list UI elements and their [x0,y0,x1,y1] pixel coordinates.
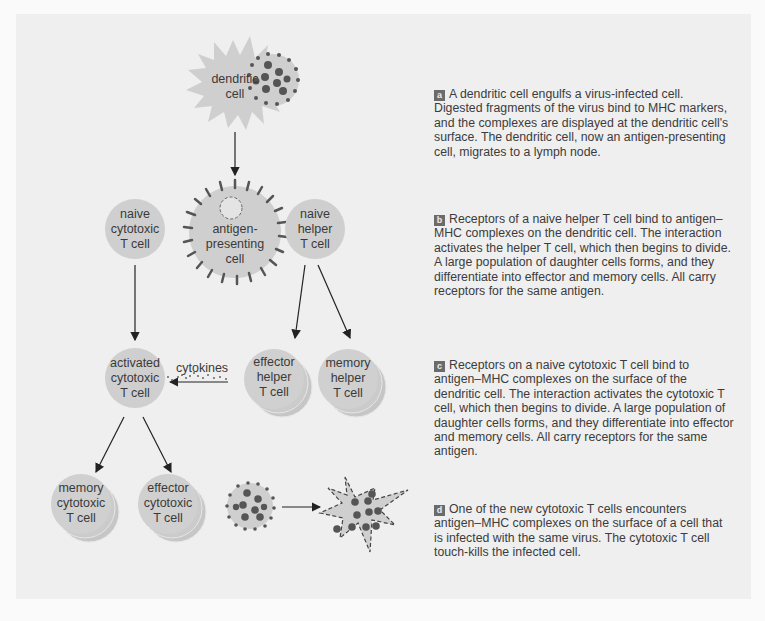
arrow-naive-helper-to-memory [318,265,350,338]
step-c-text: Receptors on a naive cytotoxic T cell bi… [434,358,734,458]
antigen-presenting-cell-label: antigen-presentingcell [195,222,275,267]
infected-cell-icon [225,481,276,531]
arrow-activated-to-effector-cytotoxic [143,417,171,472]
effector-cytotoxic-t-cell-label: effectorcytotoxicT cell [133,481,203,526]
naive-cytotoxic-t-cell-label: naivecytotoxicT cell [100,207,170,252]
activated-cytotoxic-t-cell-label: activatedcytotoxicT cell [100,356,170,401]
step-d-badge: d [434,505,445,516]
step-a-text: A dendritic cell engulfs a virus-infecte… [434,87,728,159]
memory-cytotoxic-t-cell-label: memorycytotoxicT cell [46,481,116,526]
cytokines-label: cytokines [176,361,228,375]
step-a: aA dendritic cell engulfs a virus-infect… [434,87,734,159]
step-b-text: Receptors of a naive helper T cell bind … [434,212,731,298]
dying-infected-cell-icon [320,477,408,552]
step-d-text: One of the new cytotoxic T cells encount… [434,502,722,559]
step-b-badge: b [434,215,445,226]
step-d: dOne of the new cytotoxic T cells encoun… [434,502,734,560]
step-c-badge: c [434,361,445,372]
naive-helper-t-cell-label: naivehelperT cell [280,207,350,252]
step-b: bReceptors of a naive helper T cell bind… [434,212,734,298]
effector-helper-t-cell-label: effectorhelperT cell [239,355,309,400]
step-a-badge: a [434,90,445,101]
step-c: cReceptors on a naive cytotoxic T cell b… [434,358,734,459]
arrow-activated-to-memory-cytotoxic [96,417,124,472]
memory-helper-t-cell-label: memoryhelperT cell [313,356,383,401]
dendritic-cell-label: dendriticcell [200,72,270,102]
arrow-naive-helper-to-effector [295,265,305,338]
